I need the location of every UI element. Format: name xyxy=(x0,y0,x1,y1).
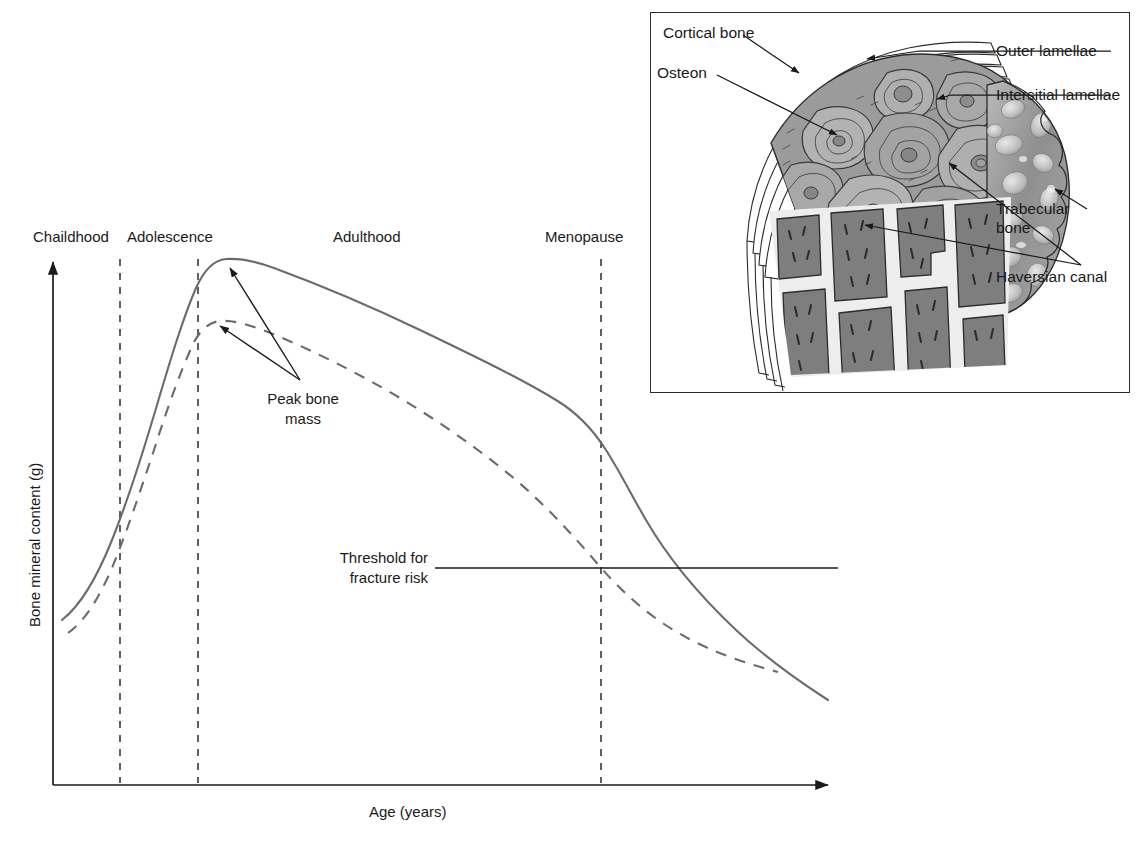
inset-label-intersitial-lamellae: Intersitial lamellae xyxy=(996,85,1120,104)
inset-label-haversian-canal: Haversian canal xyxy=(996,267,1107,286)
y-axis-label: Bone mineral content (g) xyxy=(26,463,43,627)
x-axis-label: Age (years) xyxy=(369,803,447,820)
peak-bone-mass-line1: Peak bone xyxy=(267,390,339,407)
threshold-fracture-risk-annotation: Threshold for fracture risk xyxy=(300,548,428,589)
bone-shaft-columns xyxy=(747,197,1011,391)
inset-label-outer-lamellae: Outer lamellae xyxy=(996,41,1097,60)
inset-label-trabecular-bone: Trabecular bone xyxy=(996,199,1070,238)
stage-label-adulthood: Adulthood xyxy=(333,228,401,245)
inset-label-osteon: Osteon xyxy=(657,63,707,82)
stage-label-menopause: Menopause xyxy=(545,228,623,245)
inset-label-cortical-bone: Cortical bone xyxy=(663,23,754,42)
threshold-line1: Threshold for xyxy=(340,549,428,566)
inset-label-trabecular-bone-line2: bone xyxy=(996,219,1030,236)
peak-bone-mass-line2: mass xyxy=(285,410,321,427)
inset-label-trabecular-bone-line1: Trabecular xyxy=(996,200,1070,217)
peak-bone-mass-arrow-solid xyxy=(230,268,300,380)
inset-cortical-bone-diagram: Cortical bone Osteon Outer lamellae Inte… xyxy=(650,12,1130,393)
peak-bone-mass-arrow-dashed xyxy=(220,326,300,380)
peak-bone-mass-annotation: Peak bone mass xyxy=(258,389,348,430)
bone-mineral-content-figure: Chaildhood Adolescence Adulthood Menopau… xyxy=(0,0,1138,841)
stage-label-adolescence: Adolescence xyxy=(127,228,213,245)
stage-label-chaildhood: Chaildhood xyxy=(33,228,109,245)
osteon xyxy=(802,107,873,169)
threshold-line2: fracture risk xyxy=(350,569,428,586)
